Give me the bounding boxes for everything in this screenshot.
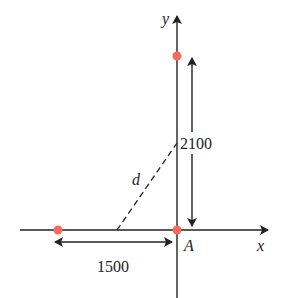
x-axis-label: x bbox=[256, 237, 264, 254]
vertical-length-label: 2100 bbox=[180, 135, 212, 152]
distance-label: d bbox=[132, 171, 141, 188]
diagram-canvas: y x A d 2100 1500 bbox=[0, 0, 283, 298]
horizontal-length-label: 1500 bbox=[97, 258, 129, 275]
top-point bbox=[173, 52, 182, 61]
distance-dashed-line bbox=[117, 143, 177, 230]
origin-point-A bbox=[173, 226, 182, 235]
left-point bbox=[54, 226, 63, 235]
origin-label: A bbox=[183, 237, 194, 254]
y-axis-label: y bbox=[160, 10, 170, 28]
